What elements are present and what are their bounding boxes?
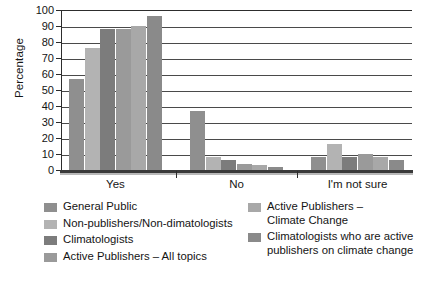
bar: [373, 157, 388, 170]
legend-swatch-icon: [248, 233, 261, 242]
bar: [358, 154, 373, 170]
bar: [389, 160, 404, 170]
y-tick-label: 100: [22, 5, 54, 15]
legend-column: Active Publishers – Climate ChangeClimat…: [248, 200, 438, 260]
legend-swatch-icon: [44, 220, 57, 229]
bar: [327, 144, 342, 170]
y-axis-tick-labels: 0102030405060708090100: [22, 10, 54, 170]
bar: [69, 79, 84, 170]
bar: [147, 16, 162, 170]
bar: [221, 160, 236, 170]
bar: [85, 48, 100, 170]
legend-label: General Public: [63, 200, 137, 214]
x-axis-shadow: [60, 173, 413, 175]
chart-legend: General PublicNon-publishers/Non-dimatol…: [0, 200, 439, 282]
legend-swatch-icon: [44, 253, 57, 262]
y-tick-label: 40: [22, 101, 54, 111]
y-tick-label: 30: [22, 117, 54, 127]
plot-block: Percentage 0102030405060708090100 YesNoI…: [0, 0, 439, 198]
legend-label: Climatologists who are active publishers…: [267, 230, 413, 257]
x-tick-label: No: [187, 178, 287, 190]
legend-item[interactable]: General Public: [44, 200, 244, 214]
legend-column: General PublicNon-publishers/Non-dimatol…: [44, 200, 244, 266]
y-tick-label: 10: [22, 149, 54, 159]
bars-layer: [61, 10, 412, 170]
legend-swatch-icon: [44, 203, 57, 212]
bar: [206, 157, 221, 170]
y-tick-label: 60: [22, 69, 54, 79]
bar-group: [69, 10, 162, 170]
bar-chart-figure: Percentage 0102030405060708090100 YesNoI…: [0, 0, 439, 282]
y-tick-label: 0: [22, 165, 54, 175]
y-tick-label: 80: [22, 37, 54, 47]
legend-label: Active Publishers – All topics: [63, 250, 207, 264]
x-axis-tick-labels: YesNoI'm not sure: [61, 178, 412, 194]
y-tick-label: 70: [22, 53, 54, 63]
x-tick-mark: [297, 171, 298, 178]
legend-item[interactable]: Climatologists: [44, 233, 244, 247]
bar: [100, 29, 115, 170]
legend-swatch-icon: [44, 236, 57, 245]
y-tick-label: 20: [22, 133, 54, 143]
x-tick-label: I'm not sure: [308, 178, 408, 190]
bar: [311, 157, 326, 170]
bar: [342, 157, 357, 170]
legend-item[interactable]: Non-publishers/Non-dimatologists: [44, 217, 244, 231]
bar: [116, 29, 131, 170]
bar: [190, 111, 205, 170]
bar-group: [190, 10, 283, 170]
legend-swatch-icon: [248, 203, 261, 212]
legend-label: Non-publishers/Non-dimatologists: [63, 217, 233, 231]
x-tick-mark: [176, 171, 177, 178]
y-tick-label: 50: [22, 85, 54, 95]
legend-item[interactable]: Active Publishers – Climate Change: [248, 200, 438, 227]
legend-item[interactable]: Climatologists who are active publishers…: [248, 230, 438, 257]
legend-label: Climatologists: [63, 233, 133, 247]
y-tick-label: 90: [22, 21, 54, 31]
legend-label: Active Publishers – Climate Change: [267, 200, 363, 227]
x-tick-label: Yes: [66, 178, 166, 190]
legend-item[interactable]: Active Publishers – All topics: [44, 250, 244, 264]
bar: [131, 26, 146, 170]
bar-group: [311, 10, 404, 170]
